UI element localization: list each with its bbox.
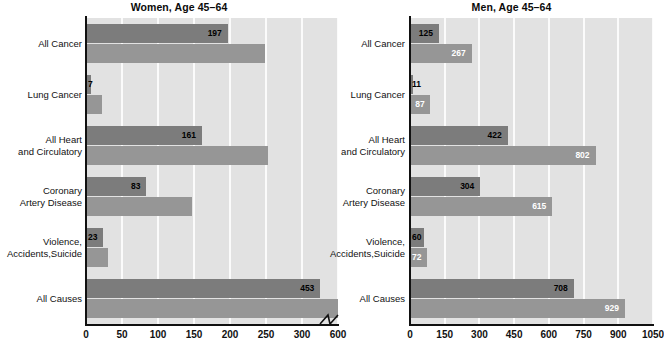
bar-value-label: 60 xyxy=(412,233,421,242)
x-tick-label: 0 xyxy=(83,329,89,340)
bar-light xyxy=(86,248,108,267)
bar-value-label: 161 xyxy=(182,131,196,140)
x-tick-label: 300 xyxy=(294,329,311,340)
category-label: All Cancer xyxy=(0,38,82,50)
bar-dark xyxy=(410,279,574,298)
gridline xyxy=(617,18,619,324)
category-label: Lung Cancer xyxy=(0,89,82,101)
x-tick-label: 300 xyxy=(471,329,488,340)
bar-value-label: 453 xyxy=(300,284,314,293)
y-axis-line-women xyxy=(85,16,87,326)
category-label: All Heart and Circulatory xyxy=(0,134,82,157)
x-tick-label: 200 xyxy=(222,329,239,340)
category-label: Coronary Artery Disease xyxy=(287,185,405,208)
category-label: All Causes xyxy=(287,293,405,305)
plot-area-women xyxy=(86,18,338,324)
gridline xyxy=(583,18,585,324)
bar-value-label: 83 xyxy=(131,182,140,191)
x-tick-label: 150 xyxy=(436,329,453,340)
gridline xyxy=(652,18,653,324)
x-tick-label: 250 xyxy=(258,329,275,340)
category-label: All Heart and Circulatory xyxy=(287,134,405,157)
x-tick-label: 1050 xyxy=(642,329,664,340)
bar-value-label: 125 xyxy=(419,29,433,38)
category-label: Violence, Accidents,Suicide xyxy=(287,236,405,259)
category-label: Violence, Accidents,Suicide xyxy=(0,236,82,259)
bar-value-label: 304 xyxy=(460,182,474,191)
chart-panel-men: Men, Age 45–64 0150300450600750900105012… xyxy=(340,0,653,353)
category-label: Lung Cancer xyxy=(287,89,405,101)
category-label: Coronary Artery Disease xyxy=(0,185,82,208)
bar-light xyxy=(86,44,265,63)
x-tick-label: 750 xyxy=(575,329,592,340)
x-tick-label: 450 xyxy=(506,329,523,340)
bar-value-label: 929 xyxy=(605,304,619,313)
bar-value-label: 7 xyxy=(88,80,93,89)
bar-light xyxy=(410,197,552,216)
bar-value-label: 615 xyxy=(532,202,546,211)
x-tick-label: 150 xyxy=(186,329,203,340)
bar-light xyxy=(410,146,596,165)
x-tick-label: 100 xyxy=(150,329,167,340)
bar-light xyxy=(410,299,625,318)
gridline xyxy=(337,18,338,324)
bar-value-label: 72 xyxy=(412,253,421,262)
x-axis-line-women xyxy=(85,324,339,326)
y-axis-line-men xyxy=(409,16,411,326)
bar-value-label: 87 xyxy=(415,100,424,109)
bar-value-label: 267 xyxy=(452,49,466,58)
x-tick-label: 900 xyxy=(610,329,627,340)
bar-value-label: 802 xyxy=(575,151,589,160)
bar-dark xyxy=(86,279,320,298)
bar-light xyxy=(86,146,268,165)
x-tick-label: 600 xyxy=(541,329,558,340)
bar-value-label: 708 xyxy=(554,284,568,293)
x-tick-label: 0 xyxy=(407,329,413,340)
bar-value-label: 23 xyxy=(88,233,97,242)
chart-title-women: Women, Age 45–64 xyxy=(0,1,340,13)
bar-value-label: 422 xyxy=(487,131,501,140)
bar-value-label: 197 xyxy=(208,29,222,38)
bar-light xyxy=(86,95,102,114)
bar-light xyxy=(86,197,192,216)
bar-dark xyxy=(86,24,228,43)
category-label: All Cancer xyxy=(287,38,405,50)
plot-area-men xyxy=(410,18,653,324)
bar-value-label: 11 xyxy=(412,80,421,89)
x-axis-line-men xyxy=(409,324,654,326)
category-label: All Causes xyxy=(0,293,82,305)
x-tick-label: 50 xyxy=(116,329,127,340)
chart-title-men: Men, Age 45–64 xyxy=(340,1,653,13)
